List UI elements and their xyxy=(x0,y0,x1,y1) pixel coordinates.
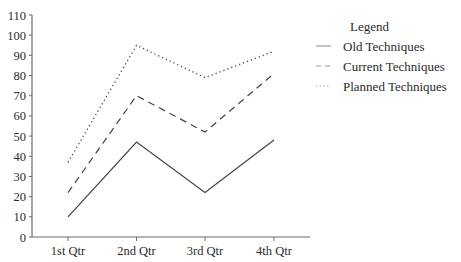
legend-label: Planned Techniques xyxy=(343,79,447,94)
legend-title: Legend xyxy=(350,19,389,34)
legend-label: Old Techniques xyxy=(343,39,425,54)
y-tick-label: 110 xyxy=(8,9,26,23)
y-tick-label: 100 xyxy=(7,29,26,43)
legend-item: Planned Techniques xyxy=(316,79,447,94)
y-tick-label: 10 xyxy=(14,210,27,224)
y-tick-label: 80 xyxy=(14,69,27,83)
x-tick-label: 2nd Qtr xyxy=(117,244,156,258)
y-tick-label: 0 xyxy=(20,231,26,245)
y-tick-label: 90 xyxy=(14,49,27,63)
y-tick-label: 50 xyxy=(14,130,27,144)
y-tick-label: 30 xyxy=(14,170,27,184)
series-line-current-techniques xyxy=(68,74,274,193)
legend-item: Current Techniques xyxy=(316,59,445,74)
x-axis: 1st Qtr2nd Qtr3rd Qtr4th Qtr xyxy=(32,237,310,258)
series-line-planned-techniques xyxy=(68,45,274,162)
legend-item: Old Techniques xyxy=(316,39,425,54)
series-line-old-techniques xyxy=(68,140,274,217)
y-tick-label: 70 xyxy=(14,89,27,103)
line-chart: 0102030405060708090100110 1st Qtr2nd Qtr… xyxy=(0,0,461,262)
x-tick-label: 1st Qtr xyxy=(51,244,86,258)
plot-area xyxy=(68,45,274,217)
legend: Legend Old TechniquesCurrent TechniquesP… xyxy=(316,19,447,94)
y-tick-label: 40 xyxy=(14,150,27,164)
y-tick-label: 60 xyxy=(14,109,27,123)
y-axis: 0102030405060708090100110 xyxy=(7,9,32,245)
legend-label: Current Techniques xyxy=(343,59,445,74)
y-tick-label: 20 xyxy=(14,190,27,204)
x-tick-label: 3rd Qtr xyxy=(187,244,224,258)
x-tick-label: 4th Qtr xyxy=(256,244,293,258)
